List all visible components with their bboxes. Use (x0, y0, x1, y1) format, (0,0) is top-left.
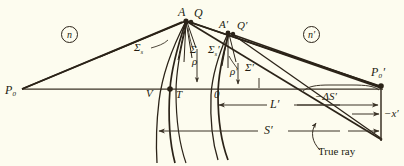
true-ray-line (186, 21, 382, 140)
point-a-label: A (178, 6, 185, 18)
refractive-index-n-prime-label: n′ (308, 29, 315, 40)
true-ray-label: True ray (318, 146, 355, 157)
refractive-index-n-badge: n (61, 26, 78, 43)
refractive-index-n-label: n (67, 29, 72, 40)
radius-rho-prime-label: ρ′ (230, 66, 238, 77)
distance-s-prime-label: S′ (264, 124, 273, 136)
sigma-s-prime-mark: ′ (217, 43, 219, 55)
delta-s-prime-label: −ΔS′ (315, 91, 337, 102)
refractive-index-n-prime-badge: n′ (303, 26, 320, 43)
sigma-s-subscript: s (141, 48, 144, 55)
distance-l-prime-label: L′ (270, 98, 279, 110)
wavefront-sigma-label: Σ (190, 44, 197, 55)
sigma-s-leader (151, 40, 168, 48)
point-p0-label: P₀ (5, 84, 17, 96)
point-origin-label: 0 (214, 89, 220, 100)
point-p0-prime-label: P₀′ (371, 66, 385, 78)
optics-figure: n n′ P₀ P₀′ A Q A′ Q′ V T 0 Σs Σ Σs′ Σ′ … (0, 0, 404, 166)
point-t-label: T (176, 89, 182, 100)
wavefront-sigma-s-prime-label: Σs′ (208, 44, 220, 58)
point-v-label: V (146, 88, 153, 99)
x-prime-label: −x′ (384, 108, 399, 119)
wavefront-sigma-s-label: Σs (134, 42, 143, 56)
radius-rho-label: ρ (192, 56, 197, 67)
point-q-label: Q (194, 7, 203, 19)
wavefront-sigma-prime-label: Σ′ (245, 62, 254, 73)
point-a-prime-label: A′ (219, 19, 228, 30)
point-q-prime-label: Q′ (237, 20, 247, 31)
figure-vector-layer (0, 0, 404, 166)
